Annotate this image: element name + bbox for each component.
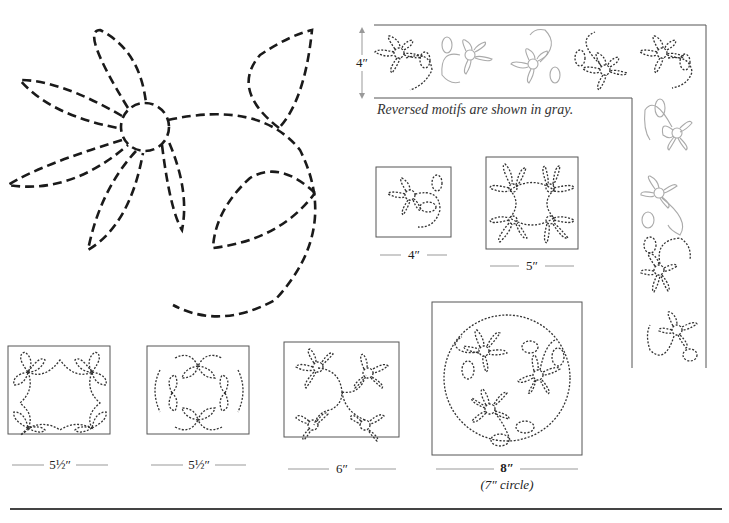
block-8-label: 8″ [494,460,520,476]
block-8-pattern [0,0,729,523]
page-divider [10,508,722,510]
block-8-circle-label: (7″ circle) [470,477,544,493]
